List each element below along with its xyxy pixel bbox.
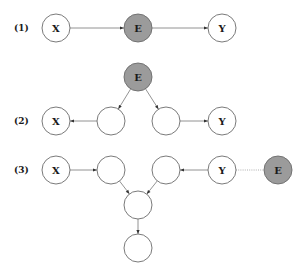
node-latent xyxy=(97,107,125,135)
directed-edge xyxy=(120,181,130,194)
node-latent xyxy=(152,156,180,184)
directed-edge xyxy=(147,181,158,194)
node-label: E xyxy=(134,72,142,83)
node-latent xyxy=(97,156,125,184)
node-label: Y xyxy=(217,116,226,127)
node-y: Y xyxy=(208,107,236,135)
node-label: X xyxy=(52,165,60,176)
node-label: Y xyxy=(217,23,226,34)
directed-edge xyxy=(146,89,159,109)
node-e: E xyxy=(124,63,152,91)
node-label: E xyxy=(134,23,142,34)
directed-edge xyxy=(118,89,130,109)
node-label: X xyxy=(52,116,60,127)
node-e: E xyxy=(124,14,152,42)
row-label-1: (1) xyxy=(14,23,29,33)
node-label: E xyxy=(274,165,282,176)
node-latent xyxy=(152,107,180,135)
node-x: X xyxy=(42,14,70,42)
node-y: Y xyxy=(208,14,236,42)
node-latent xyxy=(124,234,152,262)
row-label-3: (3) xyxy=(14,165,29,175)
nodes-layer: XEYEXYXYE xyxy=(42,14,292,262)
graphical-model-diagram: (1) (2) (3) XEYEXYXYE xyxy=(0,0,305,274)
node-label: X xyxy=(52,23,60,34)
node-y: Y xyxy=(208,156,236,184)
node-label: Y xyxy=(217,165,226,176)
row-label-2: (2) xyxy=(14,116,29,126)
node-e: E xyxy=(264,156,292,184)
node-x: X xyxy=(42,156,70,184)
node-latent xyxy=(124,191,152,219)
node-x: X xyxy=(42,107,70,135)
